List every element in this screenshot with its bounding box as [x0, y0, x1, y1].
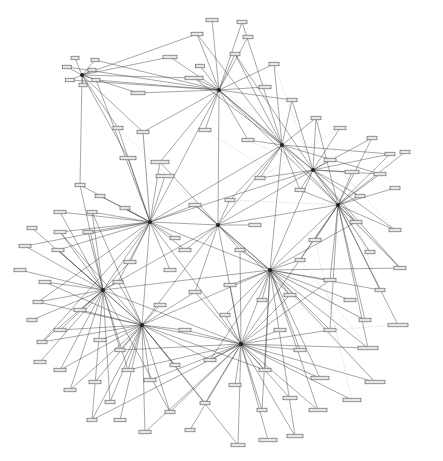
graph-node[interactable]	[283, 396, 297, 400]
graph-node[interactable]	[294, 348, 306, 352]
graph-node[interactable]	[204, 358, 216, 362]
graph-node[interactable]	[163, 55, 177, 59]
graph-node[interactable]	[359, 318, 371, 322]
hub-node[interactable]	[336, 203, 340, 207]
graph-node[interactable]	[64, 388, 76, 392]
graph-node[interactable]	[52, 248, 64, 252]
graph-node[interactable]	[191, 32, 203, 36]
graph-node[interactable]	[185, 76, 203, 80]
graph-node[interactable]	[89, 380, 101, 384]
graph-node[interactable]	[120, 156, 136, 160]
graph-node[interactable]	[287, 98, 297, 102]
graph-node[interactable]	[324, 328, 336, 332]
graph-node[interactable]	[242, 138, 254, 142]
hub-node[interactable]	[101, 288, 105, 292]
graph-node[interactable]	[200, 401, 210, 405]
graph-node[interactable]	[139, 430, 151, 434]
graph-node[interactable]	[199, 128, 211, 132]
graph-node[interactable]	[385, 152, 395, 156]
graph-node[interactable]	[71, 56, 79, 60]
graph-node[interactable]	[284, 293, 296, 297]
graph-node[interactable]	[196, 64, 205, 68]
graph-node[interactable]	[394, 266, 406, 270]
graph-node[interactable]	[151, 160, 169, 164]
graph-node[interactable]	[14, 268, 26, 272]
graph-node[interactable]	[75, 183, 85, 187]
hub-node[interactable]	[239, 342, 243, 346]
graph-node[interactable]	[257, 408, 267, 412]
graph-node[interactable]	[390, 186, 400, 190]
graph-node[interactable]	[220, 313, 230, 317]
graph-node[interactable]	[54, 328, 66, 332]
graph-node[interactable]	[39, 280, 51, 284]
graph-node[interactable]	[309, 408, 327, 412]
hub-node[interactable]	[311, 168, 315, 172]
graph-node[interactable]	[94, 338, 106, 342]
graph-node[interactable]	[324, 278, 336, 282]
graph-node[interactable]	[400, 150, 410, 154]
graph-node[interactable]	[259, 368, 271, 372]
hub-node[interactable]	[140, 323, 144, 327]
graph-node[interactable]	[229, 383, 241, 387]
graph-node[interactable]	[225, 198, 235, 202]
graph-node[interactable]	[87, 418, 97, 422]
graph-node[interactable]	[54, 230, 66, 234]
graph-node[interactable]	[375, 288, 385, 292]
graph-node[interactable]	[19, 244, 31, 248]
hub-node[interactable]	[280, 143, 284, 147]
graph-node[interactable]	[92, 78, 100, 82]
hub-node[interactable]	[217, 88, 221, 92]
graph-node[interactable]	[164, 268, 176, 272]
graph-node[interactable]	[74, 308, 86, 312]
hub-node[interactable]	[148, 220, 152, 224]
graph-node[interactable]	[105, 400, 115, 404]
graph-node[interactable]	[206, 18, 218, 22]
hub-node[interactable]	[80, 73, 84, 77]
graph-node[interactable]	[255, 176, 265, 180]
graph-node[interactable]	[63, 65, 72, 69]
graph-node[interactable]	[334, 126, 346, 130]
graph-node[interactable]	[287, 434, 303, 438]
graph-node[interactable]	[189, 290, 201, 294]
graph-node[interactable]	[259, 85, 271, 89]
graph-node[interactable]	[54, 368, 66, 372]
graph-node[interactable]	[295, 258, 305, 262]
graph-node[interactable]	[274, 328, 286, 332]
graph-node[interactable]	[87, 210, 97, 214]
graph-node[interactable]	[367, 136, 377, 140]
graph-node[interactable]	[54, 210, 66, 214]
graph-node[interactable]	[122, 368, 134, 372]
graph-node[interactable]	[131, 91, 145, 95]
graph-node[interactable]	[189, 203, 201, 207]
graph-node[interactable]	[27, 226, 37, 230]
graph-node[interactable]	[120, 206, 130, 210]
graph-node[interactable]	[91, 58, 99, 62]
graph-node[interactable]	[257, 298, 267, 302]
graph-node[interactable]	[124, 260, 136, 264]
graph-node[interactable]	[231, 443, 245, 447]
graph-node[interactable]	[95, 194, 105, 198]
hub-node[interactable]	[216, 223, 220, 227]
graph-node[interactable]	[170, 236, 180, 240]
graph-node[interactable]	[243, 35, 253, 39]
graph-node[interactable]	[324, 158, 336, 162]
graph-node[interactable]	[113, 280, 123, 284]
graph-node[interactable]	[259, 438, 277, 442]
graph-node[interactable]	[79, 83, 87, 87]
graph-node[interactable]	[237, 20, 247, 24]
graph-node[interactable]	[224, 283, 236, 287]
graph-node[interactable]	[358, 346, 378, 350]
graph-node[interactable]	[355, 194, 365, 198]
graph-node[interactable]	[165, 410, 175, 414]
graph-node[interactable]	[144, 378, 156, 382]
graph-node[interactable]	[389, 228, 401, 232]
graph-node[interactable]	[33, 300, 43, 304]
graph-node[interactable]	[88, 68, 96, 72]
graph-node[interactable]	[137, 130, 149, 134]
graph-node[interactable]	[170, 363, 180, 367]
graph-node[interactable]	[350, 220, 362, 224]
graph-node[interactable]	[235, 248, 245, 252]
graph-node[interactable]	[156, 174, 174, 178]
graph-node[interactable]	[113, 126, 123, 130]
graph-node[interactable]	[185, 428, 195, 432]
